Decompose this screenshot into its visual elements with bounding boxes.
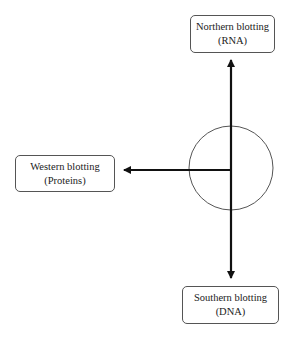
southern-blotting-title: Southern blotting — [194, 291, 267, 305]
southern-blotting-subtitle: (DNA) — [216, 305, 246, 319]
southern-blotting-box: Southern blotting (DNA) — [182, 286, 279, 324]
northern-blotting-box: Northern blotting (RNA) — [190, 15, 275, 53]
western-blotting-title: Western blotting — [30, 160, 99, 174]
northern-blotting-subtitle: (RNA) — [218, 34, 247, 48]
western-blotting-subtitle: (Proteins) — [44, 174, 85, 188]
western-blotting-box: Western blotting (Proteins) — [15, 155, 115, 192]
northern-blotting-title: Northern blotting — [196, 20, 269, 34]
